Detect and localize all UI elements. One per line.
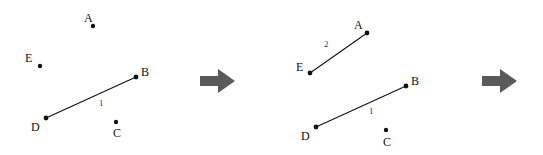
point-c (114, 120, 118, 124)
point-e (308, 71, 313, 76)
step-arrow-2 (482, 68, 518, 94)
step-arrow-1 (200, 68, 236, 94)
point-label-d: D (31, 121, 40, 133)
point-b (134, 75, 139, 80)
point-label-d: D (301, 130, 310, 142)
point-label-b: B (141, 66, 149, 78)
segment-db (46, 77, 136, 118)
point-label-e: E (25, 52, 32, 64)
diagram-panel-step-1: A E B D C 1 (0, 0, 190, 155)
diagram-panel-step-2: A E B D C 2 1 (280, 0, 470, 155)
arrow-shape (482, 69, 517, 93)
point-c (384, 128, 388, 132)
panel-1-geometry (0, 0, 190, 155)
point-label-c: C (113, 127, 121, 139)
diagram-canvas: A E B D C 1 A E B D C 2 1 (0, 0, 543, 155)
point-a (365, 31, 370, 36)
point-label-c: C (383, 136, 391, 148)
segment-label-ea: 2 (324, 40, 329, 49)
point-label-b: B (411, 75, 419, 87)
right-arrow-icon (200, 68, 236, 94)
point-b (404, 84, 409, 89)
segment-label-db: 1 (99, 99, 104, 108)
point-label-a: A (354, 19, 363, 31)
segment-ea (310, 33, 367, 73)
point-label-a: A (84, 12, 93, 24)
right-arrow-icon (482, 68, 518, 94)
arrow-shape (200, 69, 235, 93)
point-d (314, 125, 319, 130)
segment-db (316, 86, 406, 127)
segment-label-db: 1 (369, 107, 374, 116)
point-label-e: E (296, 61, 303, 73)
point-e (38, 64, 42, 68)
point-d (44, 116, 49, 121)
